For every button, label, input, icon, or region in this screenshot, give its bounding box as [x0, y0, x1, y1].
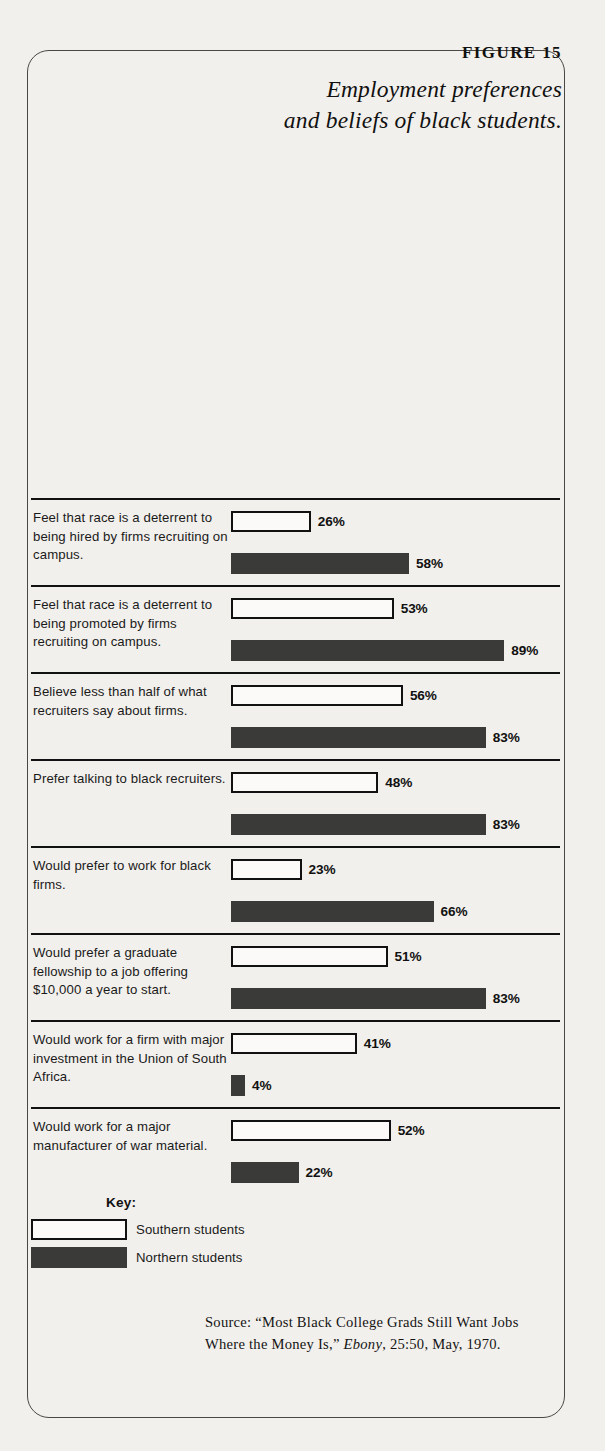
chart-row-inner: Would work for a firm with major investm…	[31, 1022, 560, 1107]
legend-swatch-northern-icon	[31, 1247, 127, 1268]
source-publication: Ebony	[344, 1336, 383, 1352]
bar-south	[231, 1033, 357, 1054]
chart-row-label: Prefer talking to black recruiters.	[31, 761, 231, 789]
bar-north	[231, 901, 434, 922]
table-row: Would work for a major manufacturer of w…	[31, 1107, 560, 1194]
legend-item-southern: Southern students	[31, 1219, 560, 1240]
chart-row-bars: 52%22%	[231, 1109, 560, 1194]
bar-north	[231, 727, 486, 748]
bar-line-north: 83%	[231, 986, 560, 1011]
bar-north	[231, 1075, 245, 1096]
table-row: Would work for a firm with major investm…	[31, 1020, 560, 1107]
legend-title: Key:	[31, 1195, 560, 1210]
figure-title-block: FIGURE 15 Employment preferences and bel…	[0, 44, 605, 136]
chart-row-label: Would work for a major manufacturer of w…	[31, 1109, 231, 1155]
chart-row-inner: Would prefer a graduate fellowship to a …	[31, 935, 560, 1020]
bar-line-north: 58%	[231, 551, 560, 576]
chart-row-label: Would work for a firm with major investm…	[31, 1022, 231, 1087]
bar-value-north: 89%	[511, 643, 538, 658]
bar-south	[231, 1120, 391, 1141]
bar-line-north: 66%	[231, 899, 560, 924]
table-row: Feel that race is a deterrent to being p…	[31, 585, 560, 672]
chart-row-label: Feel that race is a deterrent to being h…	[31, 500, 231, 565]
chart-row-label: Believe less than half of what recruiter…	[31, 674, 231, 720]
chart-row-bars: 41%4%	[231, 1022, 560, 1107]
bar-value-north: 4%	[252, 1078, 271, 1093]
bar-south	[231, 511, 311, 532]
bar-north	[231, 640, 504, 661]
bar-value-south: 23%	[309, 862, 336, 877]
chart-row-bars: 48%83%	[231, 761, 560, 846]
chart-row-inner: Feel that race is a deterrent to being p…	[31, 587, 560, 672]
figure-number: FIGURE 15	[0, 44, 562, 61]
bar-line-south: 48%	[231, 770, 560, 795]
bar-line-south: 26%	[231, 509, 560, 534]
bar-line-south: 41%	[231, 1031, 560, 1056]
chart-row-label: Would prefer to work for black firms.	[31, 848, 231, 894]
table-row: Prefer talking to black recruiters.48%83…	[31, 759, 560, 846]
figure-title-line-2: and beliefs of black students.	[284, 107, 562, 133]
bar-line-south: 23%	[231, 857, 560, 882]
chart-rows: Feel that race is a deterrent to being h…	[31, 498, 560, 1194]
bar-south	[231, 772, 378, 793]
bar-south	[231, 946, 388, 967]
legend-label-northern: Northern students	[136, 1250, 243, 1265]
bar-value-south: 56%	[410, 688, 437, 703]
bar-value-south: 26%	[318, 514, 345, 529]
chart-row-label: Would prefer a graduate fellowship to a …	[31, 935, 231, 1000]
legend-label-southern: Southern students	[136, 1222, 245, 1237]
chart-row-inner: Would prefer to work for black firms.23%…	[31, 848, 560, 933]
legend-swatch-southern-icon	[31, 1219, 127, 1240]
bar-line-north: 4%	[231, 1073, 560, 1098]
bar-north	[231, 1162, 299, 1183]
bar-line-south: 53%	[231, 596, 560, 621]
chart-row-inner: Feel that race is a deterrent to being h…	[31, 500, 560, 585]
bar-south	[231, 598, 394, 619]
bar-line-south: 52%	[231, 1118, 560, 1143]
source-citation: Source: “Most Black College Grads Still …	[205, 1311, 535, 1355]
page-title: Employment preferences and beliefs of bl…	[0, 74, 562, 136]
table-row: Feel that race is a deterrent to being h…	[31, 498, 560, 585]
bar-value-north: 66%	[441, 904, 468, 919]
bar-value-south: 52%	[398, 1123, 425, 1138]
bar-line-south: 51%	[231, 944, 560, 969]
bar-value-south: 51%	[395, 949, 422, 964]
bar-value-north: 83%	[493, 730, 520, 745]
chart-row-bars: 53%89%	[231, 587, 560, 672]
source-suffix: , 25:50, May, 1970.	[382, 1336, 501, 1352]
table-row: Would prefer to work for black firms.23%…	[31, 846, 560, 933]
bar-value-south: 53%	[401, 601, 428, 616]
table-row: Would prefer a graduate fellowship to a …	[31, 933, 560, 1020]
bar-value-north: 83%	[493, 991, 520, 1006]
chart-row-inner: Would work for a major manufacturer of w…	[31, 1109, 560, 1194]
chart-row-inner: Believe less than half of what recruiter…	[31, 674, 560, 759]
figure-title-line-1: Employment preferences	[326, 76, 562, 102]
bar-value-north: 83%	[493, 817, 520, 832]
legend-item-northern: Northern students	[31, 1247, 560, 1268]
bar-south	[231, 685, 403, 706]
bar-line-north: 83%	[231, 725, 560, 750]
bar-value-south: 41%	[364, 1036, 391, 1051]
bar-line-north: 83%	[231, 812, 560, 837]
bar-north	[231, 814, 486, 835]
bar-value-south: 48%	[385, 775, 412, 790]
bar-line-south: 56%	[231, 683, 560, 708]
bar-value-north: 58%	[416, 556, 443, 571]
bar-south	[231, 859, 302, 880]
bar-north	[231, 553, 409, 574]
bar-value-north: 22%	[306, 1165, 333, 1180]
chart-row-bars: 23%66%	[231, 848, 560, 933]
bar-north	[231, 988, 486, 1009]
chart-row-label: Feel that race is a deterrent to being p…	[31, 587, 231, 652]
bar-line-north: 89%	[231, 638, 560, 663]
chart-row-inner: Prefer talking to black recruiters.48%83…	[31, 761, 560, 846]
table-row: Believe less than half of what recruiter…	[31, 672, 560, 759]
chart-row-bars: 26%58%	[231, 500, 560, 585]
bar-line-north: 22%	[231, 1160, 560, 1185]
chart-legend: Key: Southern students Northern students	[31, 1195, 560, 1275]
chart-row-bars: 56%83%	[231, 674, 560, 759]
chart-row-bars: 51%83%	[231, 935, 560, 1020]
